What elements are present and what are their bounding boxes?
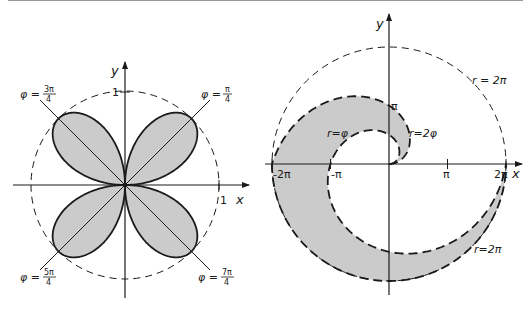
x-tick-pi: π bbox=[443, 168, 450, 181]
figure-canvas: y 1 1 x φ = 3π 4 φ = π 4 φ = 5π 4 φ = 7π… bbox=[0, 0, 531, 313]
svg-text:3π: 3π bbox=[44, 85, 54, 94]
x-axis-label: x bbox=[235, 192, 244, 207]
svg-text:4: 4 bbox=[224, 278, 229, 287]
x-tick-2pi: 2π bbox=[494, 168, 508, 181]
y-tick-pi: π bbox=[391, 100, 398, 113]
left-figure-rose: y 1 1 x φ = 3π 4 φ = π 4 φ = 5π 4 φ = 7π… bbox=[13, 62, 249, 298]
label-phi-7pi4: φ = 7π 4 bbox=[198, 268, 234, 287]
label-phi-pi4: φ = π 4 bbox=[201, 85, 232, 104]
label-r-2pi-top: r = 2π bbox=[472, 74, 507, 87]
svg-text:φ =: φ = bbox=[20, 271, 40, 284]
svg-text:4: 4 bbox=[46, 278, 51, 287]
svg-text:φ =: φ = bbox=[201, 88, 221, 101]
svg-text:φ =: φ = bbox=[198, 271, 218, 284]
x-tick-neg-2pi: -2π bbox=[273, 168, 291, 181]
y-tick-one-label: 1 bbox=[112, 86, 119, 99]
y-axis-label: y bbox=[375, 16, 384, 31]
label-r-2phi: r=2φ bbox=[409, 127, 438, 140]
svg-text:φ =: φ = bbox=[20, 88, 40, 101]
label-phi-3pi4: φ = 3π 4 bbox=[20, 85, 56, 104]
x-tick-one-label: 1 bbox=[220, 194, 227, 207]
svg-text:4: 4 bbox=[46, 95, 51, 104]
y-axis-label: y bbox=[110, 63, 119, 78]
svg-text:4: 4 bbox=[225, 95, 230, 104]
x-tick-neg-pi: -π bbox=[331, 168, 342, 181]
x-axis-label: x bbox=[511, 166, 520, 181]
label-r-phi: r=φ bbox=[327, 127, 349, 140]
label-r-2pi-bottom: r=2π bbox=[474, 243, 502, 256]
svg-text:5π: 5π bbox=[44, 268, 54, 277]
svg-text:7π: 7π bbox=[222, 268, 232, 277]
svg-text:π: π bbox=[225, 85, 230, 94]
right-figure-spirals: -2π -π π 2π x y π r=φ r=2φ r = 2π r=2π bbox=[265, 14, 522, 295]
label-phi-5pi4: φ = 5π 4 bbox=[20, 268, 56, 287]
